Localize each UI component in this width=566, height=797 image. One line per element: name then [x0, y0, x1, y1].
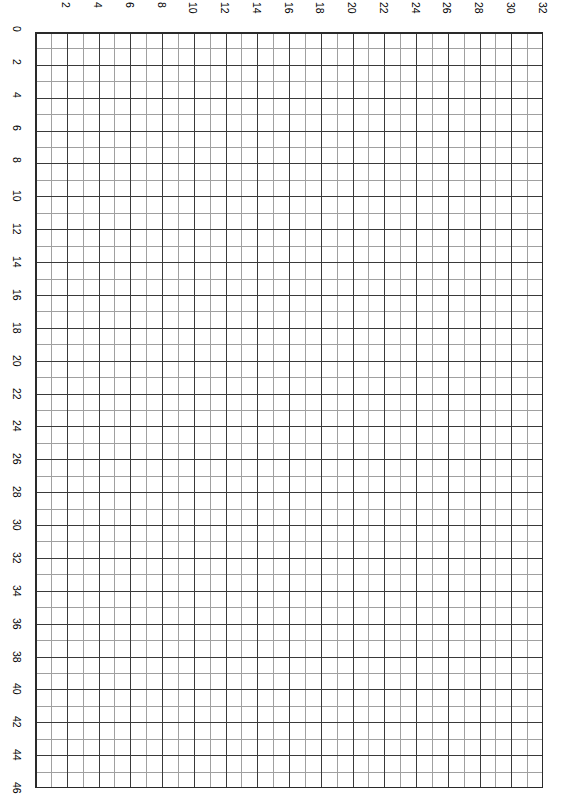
y-axis-tick-label: 14 [12, 256, 23, 268]
y-axis-tick-label: 38 [12, 651, 23, 663]
y-axis-tick-label: 28 [12, 486, 23, 498]
y-axis-tick-label: 4 [12, 92, 23, 98]
x-axis-tick-label: 6 [124, 2, 135, 8]
y-axis-tick-label: 12 [12, 223, 23, 235]
x-axis-tick-label: 14 [251, 2, 262, 14]
y-axis-tick-label: 0 [12, 26, 23, 32]
grid-lines-svg [35, 32, 543, 788]
x-axis-tick-label: 12 [220, 2, 231, 14]
y-axis-tick-label: 44 [12, 749, 23, 761]
x-axis-tick-label: 16 [283, 2, 294, 14]
y-axis-tick-label: 8 [12, 157, 23, 163]
y-axis-tick-label: 34 [12, 585, 23, 597]
y-axis-tick-label: 2 [12, 59, 23, 65]
graph-paper-sheet: 2468101214161820222426283032 02468101214… [0, 0, 566, 797]
y-axis-tick-label: 18 [12, 322, 23, 334]
x-axis-tick-label: 4 [93, 2, 104, 8]
y-axis-tick-label: 30 [12, 519, 23, 531]
x-axis-tick-label: 30 [505, 2, 516, 14]
y-axis-tick-label: 22 [12, 388, 23, 400]
x-axis-tick-label: 20 [347, 2, 358, 14]
x-axis-tick-label: 22 [378, 2, 389, 14]
x-axis-tick-label: 24 [410, 2, 421, 14]
y-axis-tick-label: 20 [12, 355, 23, 367]
x-axis-tick-label: 10 [188, 2, 199, 14]
x-axis-tick-label: 8 [156, 2, 167, 8]
x-axis-tick-label: 26 [442, 2, 453, 14]
y-axis-tick-label: 24 [12, 420, 23, 432]
x-axis-tick-label: 18 [315, 2, 326, 14]
y-axis-tick-label: 26 [12, 453, 23, 465]
y-axis-tick-label: 6 [12, 125, 23, 131]
x-axis-tick-label: 28 [474, 2, 485, 14]
grid-plot-area[interactable] [35, 32, 543, 788]
y-axis-tick-label: 40 [12, 683, 23, 695]
y-axis-tick-label: 36 [12, 618, 23, 630]
y-axis-tick-label: 46 [12, 782, 23, 794]
x-axis-tick-label: 32 [537, 2, 548, 14]
y-axis-tick-label: 42 [12, 716, 23, 728]
x-axis-tick-label: 2 [61, 2, 72, 8]
y-axis-tick-label: 16 [12, 289, 23, 301]
y-axis-tick-label: 10 [12, 190, 23, 202]
y-axis-tick-label: 32 [12, 552, 23, 564]
